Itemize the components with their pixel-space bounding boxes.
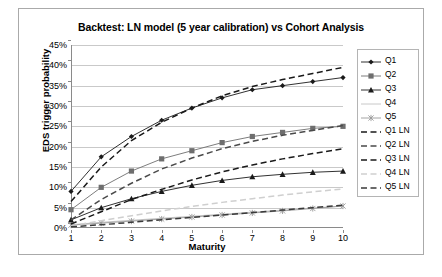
plot-wrap: [71, 45, 343, 228]
legend-item-q5-ln[interactable]: Q5 LN: [360, 179, 416, 193]
legend-label: Q5 LN: [385, 181, 410, 191]
data-point-marker: [340, 75, 345, 80]
data-point-marker: [280, 83, 285, 88]
data-point-marker: [250, 87, 255, 92]
series-line: [71, 78, 343, 192]
legend-label: Q1: [385, 55, 396, 65]
series-line: [71, 171, 343, 220]
series-line: [71, 126, 343, 209]
series-line: [71, 205, 343, 227]
legend-label: Q3 LN: [385, 153, 410, 163]
series-q2: [68, 124, 345, 213]
data-point-marker: [129, 168, 134, 173]
series-line: [71, 149, 343, 224]
y-axis-tick-label: 45%: [49, 40, 67, 50]
legend-item-q2-ln[interactable]: Q2 LN: [360, 137, 416, 151]
data-point-marker: [159, 156, 164, 161]
y-axis-tick-label: 30%: [49, 101, 67, 111]
legend-item-q2[interactable]: Q2: [360, 67, 416, 81]
x-axis-tick-mark: [162, 230, 163, 233]
x-axis-tick-mark: [313, 230, 314, 233]
legend-swatch: [360, 54, 382, 66]
x-axis-tick-mark: [101, 230, 102, 233]
legend-item-q4-ln[interactable]: Q4 LN: [360, 165, 416, 179]
legend-swatch: [360, 124, 382, 136]
y-axis-tick-label: 40%: [49, 60, 67, 70]
x-axis-tick-mark: [192, 230, 193, 233]
x-axis-title: Maturity: [71, 241, 343, 252]
legend-swatch: [360, 68, 382, 80]
data-point-marker: [250, 134, 255, 139]
y-axis-tick-mark: [68, 40, 71, 41]
chart-title: Backtest: LN model (5 year calibration) …: [19, 21, 423, 33]
y-axis-tick-label: 10%: [49, 182, 67, 192]
legend-label: Q2 LN: [385, 139, 410, 149]
legend-label: Q4: [385, 97, 396, 107]
y-axis-title: EDS trigger probability: [40, 41, 51, 161]
x-axis-tick-mark: [343, 230, 344, 233]
data-point-marker: [368, 59, 373, 64]
legend-swatch: [360, 110, 382, 122]
legend-label: Q2: [385, 69, 396, 79]
legend-item-q3-ln[interactable]: Q3 LN: [360, 151, 416, 165]
legend-item-q1-ln[interactable]: Q1 LN: [360, 123, 416, 137]
y-axis-tick-label: 20%: [49, 142, 67, 152]
data-point-marker: [368, 73, 373, 78]
legend-label: Q3: [385, 83, 396, 93]
y-axis-tick-label: 25%: [49, 121, 67, 131]
y-axis-tick-label: 15%: [49, 162, 67, 172]
data-point-marker: [310, 79, 315, 84]
x-axis-tick-mark: [283, 230, 284, 233]
legend-swatch: [360, 152, 382, 164]
legend-swatch: [360, 96, 382, 108]
x-axis-tick-mark: [71, 230, 72, 233]
x-axis-tick-mark: [222, 230, 223, 233]
series-q3-ln: [71, 149, 343, 224]
legend-item-q4[interactable]: Q4: [360, 95, 416, 109]
data-point-marker: [68, 207, 73, 212]
series-layer: [71, 45, 343, 228]
x-axis-tick-mark: [252, 230, 253, 233]
legend-swatch: [360, 82, 382, 94]
data-point-marker: [159, 118, 164, 123]
legend-swatch: [360, 138, 382, 150]
chart-legend: Q1Q2Q3Q4Q5Q1 LNQ2 LNQ3 LNQ4 LNQ5 LN: [357, 49, 419, 197]
legend-swatch: [360, 180, 382, 192]
data-point-marker: [189, 148, 194, 153]
y-axis-tick-label: 0%: [54, 223, 67, 233]
y-axis-tick-label: 5%: [54, 203, 67, 213]
legend-label: Q1 LN: [385, 125, 410, 135]
chart-frame: Backtest: LN model (5 year calibration) …: [18, 8, 424, 255]
data-point-marker: [220, 140, 225, 145]
legend-item-q1[interactable]: Q1: [360, 53, 416, 67]
x-axis-tick-mark: [131, 230, 132, 233]
legend-label: Q4 LN: [385, 167, 410, 177]
legend-swatch: [360, 166, 382, 178]
series-q5-ln: [71, 205, 343, 227]
y-axis-tick-label: 35%: [49, 81, 67, 91]
data-point-marker: [99, 185, 104, 190]
data-point-marker: [129, 134, 134, 139]
legend-item-q3[interactable]: Q3: [360, 81, 416, 95]
legend-label: Q5: [385, 111, 396, 121]
legend-item-q5[interactable]: Q5: [360, 109, 416, 123]
